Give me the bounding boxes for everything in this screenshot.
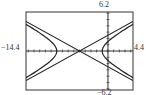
x-max-label: 4.4 (134, 44, 144, 52)
graph-plot (0, 0, 146, 95)
x-min-label: −14.4 (1, 44, 20, 52)
y-max-label: 6.2 (99, 1, 109, 9)
y-min-label: −6.2 (97, 89, 112, 95)
